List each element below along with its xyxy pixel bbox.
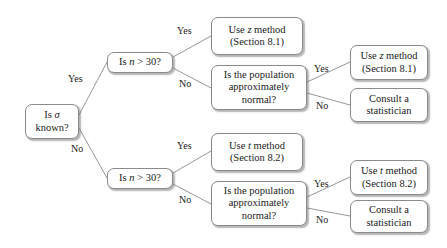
node-line: Consult a bbox=[369, 93, 409, 106]
node-line: normal? bbox=[242, 210, 276, 223]
node-line: (Section 8.1) bbox=[362, 63, 416, 76]
edge-label-poptop-no: No bbox=[316, 100, 328, 111]
node-line: Use z method bbox=[360, 50, 417, 63]
node-line: Consult a bbox=[369, 204, 409, 217]
node-line: Use z method bbox=[228, 24, 285, 37]
node-line: approximately bbox=[229, 197, 290, 210]
edge-label-n30bottom-yes: Yes bbox=[177, 140, 192, 151]
edge-label-n30bottom-no: No bbox=[179, 194, 191, 205]
node-line: Use t method bbox=[229, 140, 285, 153]
node-line: Is σ bbox=[44, 109, 59, 122]
node-line: (Section 8.2) bbox=[362, 178, 416, 191]
edge-popbottom-no bbox=[307, 208, 350, 216]
node-line: Use t method bbox=[361, 165, 417, 178]
edge-label-poptop-yes: Yes bbox=[314, 63, 329, 74]
node-consult-statistician-top[interactable]: Consult a statistician bbox=[350, 88, 428, 122]
edge-label-popbottom-yes: Yes bbox=[314, 178, 329, 189]
node-is-sigma-known[interactable]: Is σ known? bbox=[25, 104, 79, 139]
edge-poptop-no bbox=[307, 93, 350, 105]
edge-label-root-no: No bbox=[71, 143, 83, 154]
node-line: Is the population bbox=[224, 69, 295, 82]
node-use-t-method-right[interactable]: Use t method (Section 8.2) bbox=[350, 160, 428, 195]
node-line: (Section 8.1) bbox=[230, 36, 284, 49]
node-is-n-gt-30-bottom[interactable]: Is n > 30? bbox=[107, 168, 173, 189]
edge-label-n30top-no: No bbox=[179, 78, 191, 89]
node-is-population-normal-bottom[interactable]: Is the population approximately normal? bbox=[211, 181, 307, 226]
edge-label-n30top-yes: Yes bbox=[177, 25, 192, 36]
node-line: known? bbox=[35, 122, 68, 135]
node-use-z-method-top[interactable]: Use z method (Section 8.1) bbox=[211, 17, 303, 55]
node-consult-statistician-bottom[interactable]: Consult a statistician bbox=[350, 200, 428, 233]
edge-root-yes bbox=[79, 62, 107, 115]
node-line: statistician bbox=[367, 217, 412, 230]
node-is-population-normal-top[interactable]: Is the population approximately normal? bbox=[211, 65, 307, 110]
node-use-z-method-right[interactable]: Use z method (Section 8.1) bbox=[350, 45, 428, 80]
node-line: Is n > 30? bbox=[119, 56, 161, 69]
node-line: approximately bbox=[229, 81, 290, 94]
node-line: Is n > 30? bbox=[119, 172, 161, 185]
flowchart-canvas: Is σ known? Is n > 30? Is n > 30? Use z … bbox=[0, 0, 447, 248]
node-line: (Section 8.2) bbox=[230, 152, 284, 165]
node-line: normal? bbox=[242, 94, 276, 107]
edge-n30bottom-yes bbox=[173, 151, 211, 173]
node-line: statistician bbox=[367, 105, 412, 118]
node-use-t-method-bottom[interactable]: Use t method (Section 8.2) bbox=[211, 133, 303, 171]
node-is-n-gt-30-top[interactable]: Is n > 30? bbox=[107, 52, 173, 73]
edge-n30top-yes bbox=[173, 36, 211, 57]
edge-label-root-yes: Yes bbox=[68, 73, 83, 84]
node-line: Is the population bbox=[224, 185, 295, 198]
edge-label-popbottom-no: No bbox=[316, 214, 328, 225]
